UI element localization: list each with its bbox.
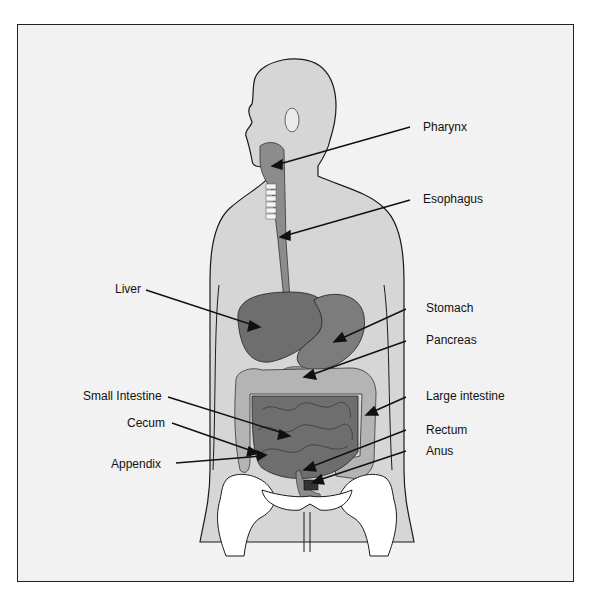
label-pancreas: Pancreas (426, 333, 477, 347)
small-intestine-organ (252, 396, 358, 479)
digestive-system-illustration (0, 0, 593, 604)
label-rectum: Rectum (426, 423, 467, 437)
label-appendix: Appendix (111, 457, 161, 471)
label-liver: Liver (115, 282, 141, 296)
label-large-intestine: Large intestine (426, 389, 505, 403)
label-cecum: Cecum (127, 416, 165, 430)
label-anus: Anus (426, 444, 453, 458)
label-small-intestine: Small Intestine (83, 389, 162, 403)
label-pharynx: Pharynx (423, 120, 467, 134)
label-esophagus: Esophagus (423, 192, 483, 206)
label-stomach: Stomach (426, 301, 473, 315)
